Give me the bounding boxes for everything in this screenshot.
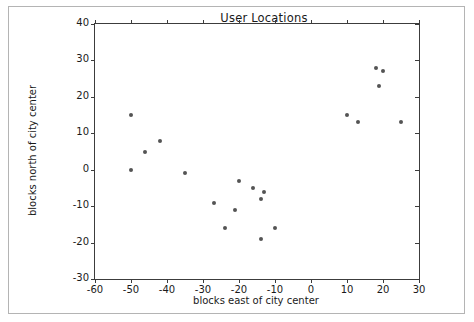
y-tick-mark-right (415, 170, 419, 171)
x-tick-mark-top (275, 20, 276, 24)
y-tick-label: 20 (57, 90, 89, 101)
y-tick-label: 0 (57, 163, 89, 174)
scatter-point (129, 113, 133, 117)
x-tick-label: 0 (291, 284, 331, 295)
x-tick-label: 30 (399, 284, 439, 295)
y-tick-label: 30 (57, 53, 89, 64)
scatter-point (374, 66, 378, 70)
x-tick-mark (95, 279, 96, 283)
x-tick-mark-top (95, 20, 96, 24)
x-tick-mark-top (203, 20, 204, 24)
plot-area: blocks north of city center -60-50-40-30… (94, 23, 420, 280)
scatter-point (381, 69, 385, 73)
scatter-point (143, 150, 147, 154)
y-tick-mark (91, 243, 95, 244)
x-tick-label: -40 (147, 284, 187, 295)
x-tick-mark (203, 279, 204, 283)
y-tick-mark-right (415, 24, 419, 25)
x-tick-mark-top (347, 20, 348, 24)
y-tick-label: 40 (57, 17, 89, 28)
scatter-point (233, 208, 237, 212)
scatter-point (129, 168, 133, 172)
x-tick-label: -10 (255, 284, 295, 295)
x-axis-title: blocks east of city center (94, 295, 418, 306)
y-tick-mark (91, 24, 95, 25)
x-tick-mark-top (167, 20, 168, 24)
y-tick-mark-right (415, 97, 419, 98)
x-tick-label: 10 (327, 284, 367, 295)
scatter-point (345, 113, 349, 117)
x-tick-label: -20 (219, 284, 259, 295)
y-tick-mark-right (415, 60, 419, 61)
y-tick-mark (91, 60, 95, 61)
x-tick-label: -60 (75, 284, 115, 295)
x-tick-label: 20 (363, 284, 403, 295)
scatter-point (356, 120, 360, 124)
x-tick-mark-top (419, 20, 420, 24)
x-tick-mark-top (131, 20, 132, 24)
x-tick-mark (167, 279, 168, 283)
x-tick-mark (239, 279, 240, 283)
x-tick-mark (383, 279, 384, 283)
scatter-point (259, 197, 263, 201)
scatter-point (377, 84, 381, 88)
y-axis-title: blocks north of city center (27, 60, 38, 240)
scatter-point (251, 186, 255, 190)
y-tick-mark (91, 133, 95, 134)
scatter-point (158, 139, 162, 143)
y-tick-mark (91, 206, 95, 207)
scatter-point (223, 226, 227, 230)
y-tick-mark-right (415, 279, 419, 280)
y-tick-mark (91, 170, 95, 171)
y-tick-label: -20 (57, 236, 89, 247)
y-tick-label: -30 (57, 272, 89, 283)
y-tick-mark-right (415, 206, 419, 207)
x-tick-mark (419, 279, 420, 283)
x-tick-mark (131, 279, 132, 283)
scatter-point (273, 226, 277, 230)
scatter-point (212, 201, 216, 205)
y-tick-label: -10 (57, 199, 89, 210)
y-tick-mark-right (415, 243, 419, 244)
x-tick-label: -30 (183, 284, 223, 295)
y-tick-mark-right (415, 133, 419, 134)
x-tick-label: -50 (111, 284, 151, 295)
scatter-point (399, 120, 403, 124)
scatter-point (262, 190, 266, 194)
figure-canvas: User Locations blocks north of city cent… (8, 6, 465, 314)
y-tick-mark (91, 97, 95, 98)
y-tick-mark (91, 279, 95, 280)
x-tick-mark (275, 279, 276, 283)
x-tick-mark-top (383, 20, 384, 24)
x-tick-mark-top (239, 20, 240, 24)
y-tick-label: 10 (57, 126, 89, 137)
x-tick-mark (311, 279, 312, 283)
scatter-point (237, 179, 241, 183)
x-tick-mark-top (311, 20, 312, 24)
scatter-point (259, 237, 263, 241)
x-tick-mark (347, 279, 348, 283)
scatter-point (183, 171, 187, 175)
